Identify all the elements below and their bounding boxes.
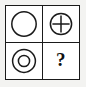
matrix-cell-top-left[interactable] bbox=[6, 6, 43, 43]
matrix-grid: ? bbox=[5, 5, 80, 80]
matrix-cell-top-right[interactable] bbox=[43, 6, 80, 43]
question-mark-icon: ? bbox=[56, 50, 66, 69]
matrix-puzzle-figure: ? bbox=[0, 0, 86, 87]
circle-plus-icon bbox=[46, 9, 76, 39]
circle-outline-icon bbox=[9, 9, 39, 39]
matrix-cell-bottom-left[interactable] bbox=[6, 43, 43, 80]
concentric-circles-icon bbox=[9, 46, 39, 76]
matrix-cell-bottom-right[interactable]: ? bbox=[43, 43, 80, 80]
